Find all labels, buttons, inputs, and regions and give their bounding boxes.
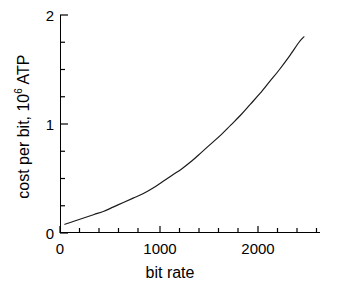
y-axis-title: cost per bit, 106 ATP: [13, 7, 32, 247]
plot-frame: [60, 15, 320, 233]
y-axis-title-prefix: cost per bit, 10: [15, 94, 32, 199]
chart-figure: 2 1 0 0 1000 2000 bit rate cost per bit,…: [0, 0, 340, 290]
x-tick-label-0: 0: [25, 241, 95, 256]
y-axis-title-suffix: ATP: [15, 55, 32, 89]
y-axis-title-exponent: 6: [13, 88, 24, 94]
x-axis-title: bit rate: [0, 264, 340, 282]
x-tick-label-1000: 1000: [125, 241, 195, 256]
x-tick-label-2000: 2000: [223, 241, 293, 256]
